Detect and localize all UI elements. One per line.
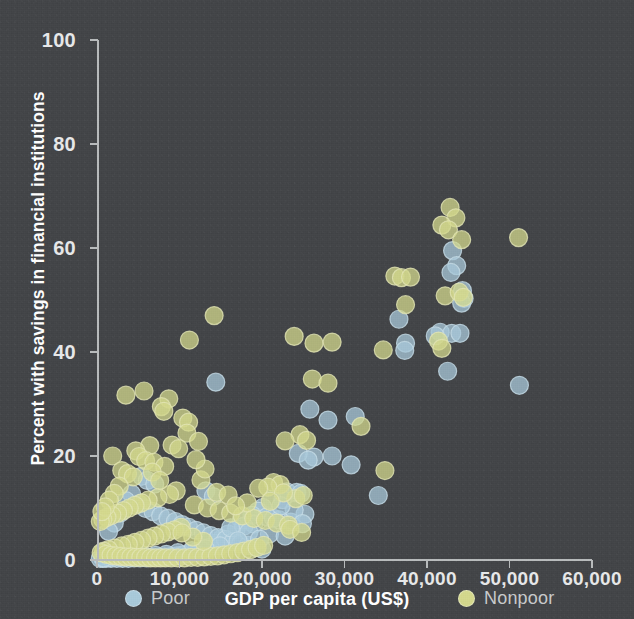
scatter-point xyxy=(293,523,311,541)
scatter-point xyxy=(299,451,317,469)
scatter-point xyxy=(442,263,460,281)
legend-label-nonpoor: Nonpoor xyxy=(484,588,554,609)
legend-item-nonpoor[interactable]: Nonpoor xyxy=(458,588,554,609)
y-tick-mark xyxy=(90,455,98,457)
scatter-point xyxy=(451,324,469,342)
x-tick-label: 10,000 xyxy=(150,568,209,590)
scatter-point xyxy=(285,327,303,345)
x-tick-label: 30,000 xyxy=(315,568,374,590)
legend-swatch-poor-icon xyxy=(125,590,142,607)
scatter-point xyxy=(454,288,472,306)
scatter-point xyxy=(187,451,205,469)
scatter-point xyxy=(397,296,415,314)
scatter-point xyxy=(319,411,337,429)
scatter-point xyxy=(170,440,188,458)
scatter-point xyxy=(342,456,360,474)
scatter-point xyxy=(294,487,312,505)
scatter-point xyxy=(207,373,225,391)
scatter-point xyxy=(439,362,457,380)
scatter-point xyxy=(433,339,451,357)
scatter-point xyxy=(135,382,153,400)
scatter-point xyxy=(305,334,323,352)
y-tick-mark xyxy=(90,39,98,41)
scatter-canvas xyxy=(97,40,592,560)
legend-swatch-nonpoor-icon xyxy=(458,590,475,607)
scatter-point xyxy=(298,431,316,449)
scatter-point xyxy=(117,386,135,404)
x-tick-label: 60,000 xyxy=(562,568,621,590)
scatter-point xyxy=(510,376,528,394)
scatter-point xyxy=(255,536,273,554)
y-tick-label: 0 xyxy=(26,549,76,572)
scatter-point xyxy=(261,492,279,510)
y-tick-mark xyxy=(90,351,98,353)
scatter-point xyxy=(323,447,341,465)
x-tick-label: 50,000 xyxy=(480,568,539,590)
scatter-point xyxy=(376,462,394,480)
x-tick-mark xyxy=(344,560,346,568)
scatter-point xyxy=(301,400,319,418)
scatter-point xyxy=(189,432,207,450)
scatter-point xyxy=(319,374,337,392)
scatter-point xyxy=(180,331,198,349)
x-tick-label: 40,000 xyxy=(397,568,456,590)
scatter-point xyxy=(510,229,528,247)
scatter-point xyxy=(396,341,414,359)
chart-figure: 020406080100 010,00020,00030,00040,00050… xyxy=(0,0,634,619)
y-tick-mark xyxy=(90,143,98,145)
x-tick-mark xyxy=(261,560,263,568)
x-tick-mark xyxy=(179,560,181,568)
scatter-point xyxy=(323,333,341,351)
scatter-point xyxy=(352,417,370,435)
scatter-point xyxy=(227,497,245,515)
scatter-point xyxy=(374,341,392,359)
plot-area xyxy=(97,40,592,560)
x-tick-label: 20,000 xyxy=(232,568,291,590)
scatter-point xyxy=(205,307,223,325)
scatter-point xyxy=(276,432,294,450)
x-tick-label: 0 xyxy=(92,568,103,590)
scatter-point xyxy=(173,524,191,542)
x-tick-mark xyxy=(591,560,593,568)
scatter-point xyxy=(453,231,471,249)
scatter-point xyxy=(155,402,173,420)
scatter-point xyxy=(151,471,169,489)
y-axis-line xyxy=(97,40,99,560)
x-tick-mark xyxy=(509,560,511,568)
scatter-point xyxy=(402,268,420,286)
x-tick-mark xyxy=(96,560,98,568)
scatter-point xyxy=(303,370,321,388)
x-tick-mark xyxy=(426,560,428,568)
legend-label-poor: Poor xyxy=(151,588,190,609)
scatter-point xyxy=(93,503,111,521)
legend-item-poor[interactable]: Poor xyxy=(125,588,190,609)
scatter-point xyxy=(369,487,387,505)
y-tick-mark xyxy=(90,247,98,249)
y-axis-title: Percent with savings in financial instit… xyxy=(28,19,49,539)
